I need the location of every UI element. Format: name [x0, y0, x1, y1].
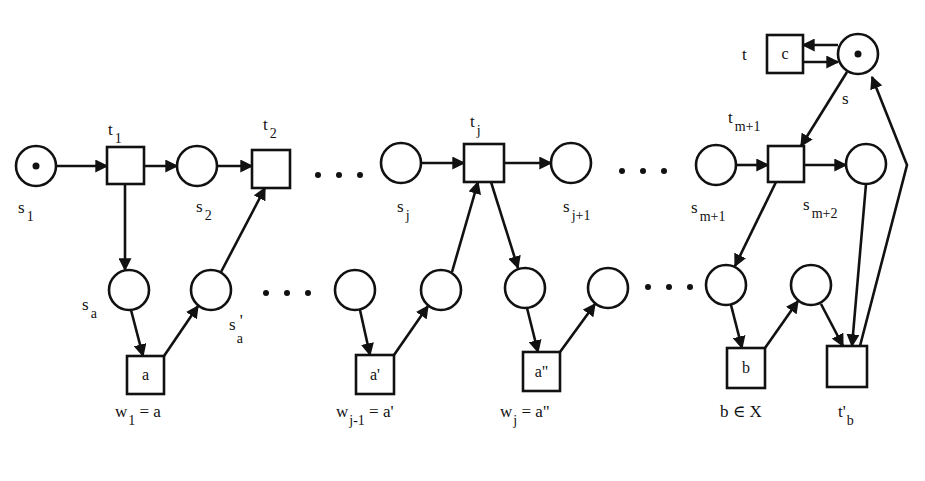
caption-bx: b ∈ X — [720, 402, 762, 421]
transition-label: a — [142, 366, 149, 383]
caption-w1: w1 = a — [115, 402, 161, 428]
ellipsis-dots-layer — [263, 168, 693, 296]
place-circle — [846, 144, 886, 184]
transitions-layer: caa'a"b — [107, 35, 867, 394]
transition-ta: a — [127, 356, 164, 394]
place-sm2 — [846, 144, 886, 184]
place-circle — [551, 143, 591, 183]
place-q3 — [505, 268, 545, 308]
arc-arrow — [852, 184, 866, 346]
arc-arrow — [765, 301, 798, 348]
place-circle — [381, 143, 421, 183]
ellipsis-dot — [640, 168, 646, 174]
place-circle — [177, 146, 217, 186]
arc-arrow — [560, 304, 595, 352]
token-dot — [33, 163, 40, 170]
place-q6 — [791, 265, 831, 305]
arcs-layer — [56, 45, 907, 356]
ellipsis-dot — [661, 168, 667, 174]
transition-t1 — [107, 147, 144, 184]
arc-arrow — [221, 188, 265, 272]
transition-tb_prime — [827, 346, 867, 387]
arc-arrow — [801, 72, 847, 146]
label-sa_prime: s'a — [229, 311, 244, 346]
transition-tb: b — [727, 348, 765, 388]
place-s1 — [16, 146, 56, 186]
place-q2 — [421, 270, 461, 310]
ellipsis-dot — [687, 284, 693, 290]
arc-arrow — [164, 306, 198, 356]
label-sj1: sj+1 — [563, 197, 590, 223]
place-sa_prime — [191, 270, 231, 310]
arc-arrow — [491, 182, 518, 268]
transition-label: a' — [370, 366, 380, 383]
transition-tc: c — [767, 35, 803, 73]
label-s1: s1 — [18, 198, 34, 224]
place-circle — [791, 265, 831, 305]
label-t: t — [742, 45, 747, 64]
place-q1 — [335, 270, 375, 310]
arc-arrow — [360, 310, 370, 355]
place-circle — [588, 268, 628, 308]
label-tj: tj — [470, 112, 481, 138]
label-sm2: sm+2 — [803, 195, 837, 221]
place-q5 — [706, 265, 746, 305]
arc-arrow — [452, 182, 478, 272]
arc-arrow — [394, 306, 428, 355]
label-sm1: sm+1 — [691, 198, 725, 224]
ellipsis-dot — [336, 172, 342, 178]
token-dot — [855, 51, 862, 58]
transition-label: c — [781, 45, 788, 62]
ellipsis-dot — [284, 290, 290, 296]
arc-arrow — [527, 308, 538, 352]
place-sa — [109, 270, 149, 310]
place-sj1 — [551, 143, 591, 183]
arc-arrow — [131, 310, 143, 356]
place-circle — [191, 270, 231, 310]
places-layer — [16, 34, 886, 310]
transition-label: b — [742, 359, 750, 376]
ellipsis-dot — [305, 290, 311, 296]
label-sj: sj — [397, 197, 410, 223]
place-q4 — [588, 268, 628, 308]
ellipsis-dot — [666, 284, 672, 290]
label-t1: t1 — [108, 120, 122, 146]
place-p_t1_out — [177, 146, 217, 186]
place-circle — [706, 265, 746, 305]
label-sa: sa — [82, 295, 98, 321]
label-t2: t2 — [263, 115, 277, 141]
transition-label: a" — [535, 363, 549, 380]
caption-tb: t'b — [838, 402, 854, 428]
transition-ta2: a" — [523, 352, 560, 391]
transition-ta1: a' — [356, 355, 394, 394]
place-sj — [381, 143, 421, 183]
captions-layer: w1 = awj-1 = a'wj = a"b ∈ Xt'b — [115, 402, 854, 428]
transition-tm1 — [768, 146, 804, 182]
ellipsis-dot — [263, 290, 269, 296]
transition-box — [252, 150, 290, 188]
transition-t2 — [252, 150, 290, 188]
place-circle — [505, 268, 545, 308]
place-circle — [421, 270, 461, 310]
place-circle — [109, 270, 149, 310]
transition-box — [827, 346, 867, 387]
label-s2: s2 — [196, 197, 212, 223]
place-circle — [335, 270, 375, 310]
place-s — [838, 34, 878, 74]
transition-tj — [464, 144, 504, 182]
label-s: s — [842, 89, 849, 108]
arc-arrow — [731, 305, 742, 348]
place-sm1 — [696, 145, 736, 185]
arc-arrow — [821, 304, 843, 346]
transition-box — [464, 144, 504, 182]
caption-wj: wj = a" — [500, 402, 550, 428]
ellipsis-dot — [357, 172, 363, 178]
petri-net-diagram: caa'a"b t1t2tjtm+1tss1s2sjsj+1sm+1sm+2sa… — [0, 0, 925, 481]
return-arc-arrow — [860, 77, 907, 346]
transition-box — [768, 146, 804, 182]
ellipsis-dot — [619, 168, 625, 174]
place-circle — [696, 145, 736, 185]
ellipsis-dot — [315, 172, 321, 178]
ellipsis-dot — [645, 284, 651, 290]
caption-wj1: wj-1 = a' — [336, 402, 394, 428]
